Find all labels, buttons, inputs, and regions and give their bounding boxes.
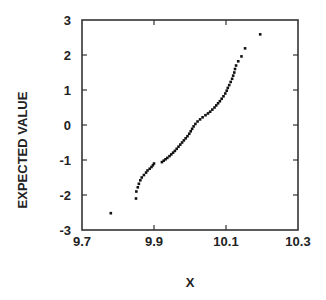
data-point — [192, 125, 195, 128]
x-tick-label: 10.1 — [213, 234, 238, 249]
data-point — [225, 89, 228, 92]
y-tick-label: 2 — [64, 48, 71, 63]
data-point — [240, 55, 243, 58]
data-point — [139, 179, 142, 182]
data-point — [219, 100, 222, 103]
data-point — [201, 116, 204, 119]
data-point — [191, 128, 194, 131]
x-axis-title: X — [186, 275, 195, 290]
y-tick-label: -3 — [59, 223, 71, 238]
y-tick-label: 0 — [64, 118, 71, 133]
data-point — [235, 64, 238, 67]
normal-probability-plot: 9.79.910.110.3 3210-1-2-3 X EXPECTED VAL… — [0, 0, 326, 300]
data-point — [189, 130, 192, 133]
axis-ticks — [82, 20, 298, 230]
data-point — [153, 162, 156, 165]
data-point — [204, 114, 207, 117]
x-tick-labels: 9.79.910.110.3 — [73, 234, 311, 249]
data-point — [135, 190, 138, 193]
plot-frame — [82, 20, 298, 230]
data-point — [188, 132, 191, 135]
data-point — [186, 135, 189, 138]
y-tick-labels: 3210-1-2-3 — [59, 13, 71, 238]
y-tick-label: 1 — [64, 83, 71, 98]
x-tick-label: 10.3 — [285, 234, 310, 249]
data-point — [140, 176, 143, 179]
y-tick-label: -2 — [59, 188, 71, 203]
data-point — [228, 84, 231, 87]
data-point — [224, 92, 227, 95]
y-axis-title: EXPECTED VALUE — [15, 91, 30, 208]
data-point — [196, 120, 199, 123]
data-point — [227, 87, 230, 90]
data-point — [244, 47, 247, 50]
data-point — [237, 60, 240, 63]
data-points — [110, 33, 262, 214]
x-tick-label: 9.7 — [73, 234, 91, 249]
data-point — [232, 74, 235, 77]
data-point — [229, 81, 232, 84]
y-tick-label: -1 — [59, 153, 71, 168]
data-point — [220, 97, 223, 100]
data-point — [137, 186, 140, 189]
data-point — [194, 123, 197, 126]
data-point — [234, 68, 237, 71]
data-point — [110, 212, 113, 215]
y-tick-label: 3 — [64, 13, 71, 28]
data-point — [143, 174, 146, 177]
plot-border — [82, 20, 298, 230]
data-point — [199, 118, 202, 121]
data-point — [233, 71, 236, 74]
data-point — [259, 33, 262, 36]
data-point — [222, 95, 225, 98]
data-point — [135, 197, 138, 200]
x-tick-label: 9.9 — [145, 234, 163, 249]
data-point — [231, 78, 234, 81]
data-point — [138, 183, 141, 186]
